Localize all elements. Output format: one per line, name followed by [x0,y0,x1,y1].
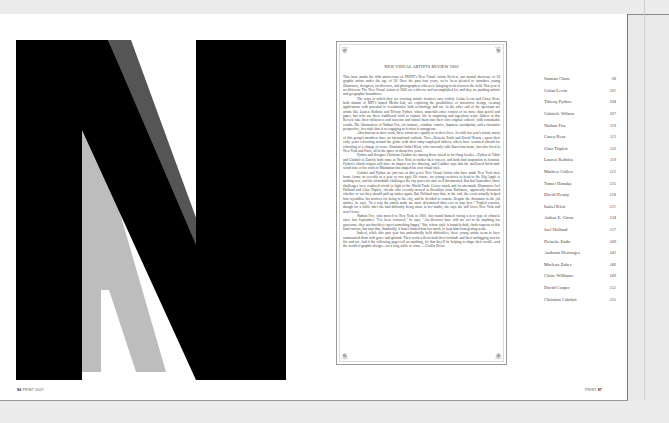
page-ref: 143 [609,250,616,255]
page-ref: 104 [609,99,616,104]
page-number-left: 96 [17,388,21,392]
folio-left: 96 PRINT 2007 [17,388,44,392]
artist-name: Claire Williams [544,273,573,278]
article-body: This issue marks the fifth anniversary o… [343,75,500,249]
contents-item[interactable]: Deineke Endo140 [544,235,616,247]
article-paragraph: Pythos and designer Christian Calabrò ar… [343,153,500,170]
artist-name: Marlena Zuber [544,262,571,267]
artist-name: Mathew Cullen [544,169,572,174]
contents-item[interactable]: Tiffeny Pythos104 [544,96,616,108]
article-paragraph: Indeed, while this past year has undoubt… [343,231,500,248]
contents-item[interactable]: Nathan Fox110 [544,119,616,131]
page-ref: 113 [610,134,616,139]
article-paragraph: Calabrò and Pythos are just two of this … [343,171,500,214]
artist-name: David Cooper [544,285,570,290]
contents-list: Saiman Chow98 Golan Levin101 Tiffeny Pyt… [544,73,616,305]
corner-ornament-icon: ❦ [340,351,350,361]
page-ref: 110 [610,123,616,128]
article-paragraph: Adventurous in their work, these artists… [343,131,500,153]
contents-item[interactable]: Isabel Klett131 [544,201,616,213]
article-box: ❦ ❦ ❦ ❦ NEW VISUAL ARTISTS REVIEW 2002 T… [336,41,507,365]
page-ref: 137 [609,227,616,232]
page-ref: 155 [609,297,616,302]
page-ref: 116 [610,146,616,151]
artist-name: Isabel Klett [544,204,565,209]
page-ref: 98 [612,76,616,81]
contents-item[interactable]: Arthur E. Giron134 [544,212,616,224]
artist-name: David Heasty [544,192,569,197]
page-ref: 125 [609,181,616,186]
corner-ornament-icon: ❦ [493,45,503,55]
corner-ornament-icon: ❦ [493,351,503,361]
folio-label-right: PRINT [585,388,596,392]
page-ref: 149 [609,273,616,278]
article-paragraph: The ways in which they are crossing arti… [343,97,500,132]
page-number-right: 97 [598,388,602,392]
artist-name: Casey Reas [544,134,565,139]
artist-name: Tomer Hanuka [544,181,571,186]
display-letter-n [16,40,286,380]
contents-item[interactable]: Tomer Hanuka125 [544,177,616,189]
article-paragraph: This issue marks the fifth anniversary o… [343,75,500,97]
contents-item[interactable]: Christian Calabrò155 [544,293,616,305]
artist-name: Lauren Redniss [544,157,573,162]
contents-item[interactable]: Golan Levin101 [544,85,616,97]
page-ref: 107 [609,111,616,116]
page-ref: 140 [609,239,616,244]
artist-name: Golan Levin [544,88,567,93]
folio-right: PRINT 97 [585,388,602,392]
page-ref: 146 [609,262,616,267]
artist-name: Joel Holland [544,227,567,232]
contents-item[interactable]: Lauren Redniss119 [544,154,616,166]
bottom-strip [0,400,669,423]
page-ref: 101 [609,88,616,93]
contents-item[interactable]: Casey Reas113 [544,131,616,143]
artist-name: Arthur E. Giron [544,215,573,220]
artist-name: Tiffeny Pythos [544,99,571,104]
page-ref: 128 [609,192,616,197]
artist-name: Gabriele Wilson [544,111,574,116]
contents-item[interactable]: Gina Triplett116 [544,143,616,155]
page-ref: 134 [609,215,616,220]
artist-name: Audouin Desforges [544,250,580,255]
artist-name: Gina Triplett [544,146,568,151]
page-ref: 119 [610,157,616,162]
artist-name: Christian Calabrò [544,297,577,302]
contents-item[interactable]: Marlena Zuber146 [544,259,616,271]
article-title: NEW VISUAL ARTISTS REVIEW 2002 [337,64,506,69]
article-paragraph: Nathan Fox, who moved to New York in 200… [343,214,500,231]
contents-item[interactable]: Joel Holland137 [544,224,616,236]
page-ref: 152 [609,285,616,290]
contents-item[interactable]: Gabriele Wilson107 [544,108,616,120]
page-ref: 131 [609,204,616,209]
page-edge-line [644,0,645,423]
article-signature: —Caitlin Dover [422,244,445,248]
contents-item[interactable]: Saiman Chow98 [544,73,616,85]
folio-label-left: PRINT 2007 [22,388,43,392]
artist-name: Deineke Endo [544,239,570,244]
top-strip [0,0,669,15]
contents-item[interactable]: Audouin Desforges143 [544,247,616,259]
artist-name: Saiman Chow [544,76,570,81]
contents-item[interactable]: David Cooper152 [544,282,616,294]
page-ref: 122 [609,169,616,174]
contents-item[interactable]: Mathew Cullen122 [544,166,616,178]
artist-name: Nathan Fox [544,123,566,128]
contents-item[interactable]: David Heasty128 [544,189,616,201]
contents-item[interactable]: Claire Williams149 [544,270,616,282]
corner-ornament-icon: ❦ [340,45,350,55]
